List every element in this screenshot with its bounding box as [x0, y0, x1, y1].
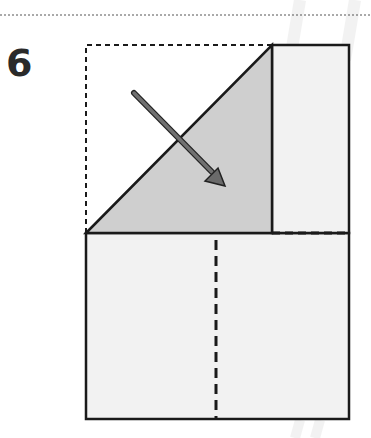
fold-diagram	[0, 0, 371, 438]
right-panel	[272, 45, 349, 233]
